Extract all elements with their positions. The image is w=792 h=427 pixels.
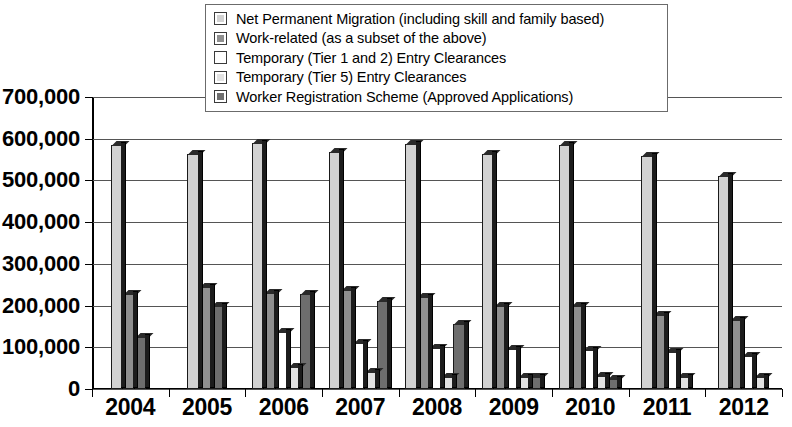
y-tick-mark	[85, 97, 93, 98]
plot-area	[92, 97, 782, 389]
y-tick-label: 500,000	[2, 167, 80, 193]
legend-swatch-icon	[214, 51, 227, 64]
legend-swatch-icon	[214, 71, 227, 84]
x-tick-label: 2012	[719, 394, 769, 421]
bar-2012-series-0	[718, 176, 730, 389]
y-axis: 0100,000200,000300,000400,000500,000600,…	[0, 0, 92, 427]
bar-2006-series-0	[252, 143, 264, 389]
legend-label: Worker Registration Scheme (Approved App…	[236, 89, 573, 105]
legend-label: Work-related (as a subset of the above)	[236, 30, 487, 46]
y-tick-label: 700,000	[2, 84, 80, 110]
legend-item-4: Worker Registration Scheme (Approved App…	[214, 87, 661, 107]
legend-swatch-icon	[214, 90, 227, 103]
x-tick-label: 2004	[105, 394, 155, 421]
gridline	[92, 389, 782, 390]
y-tick-mark	[85, 180, 93, 181]
y-tick-mark	[85, 139, 93, 140]
bar-2011-series-0	[641, 156, 653, 389]
bar-2008-series-0	[405, 144, 417, 389]
gridline	[92, 139, 782, 140]
y-tick-label: 600,000	[2, 126, 80, 152]
x-axis: 200420052006200720082009201020112012	[92, 392, 782, 427]
y-tick-mark	[85, 306, 93, 307]
bar-2009-series-0	[482, 154, 494, 389]
y-tick-label: 100,000	[2, 334, 80, 360]
legend-label: Temporary (Tier 1 and 2) Entry Clearance…	[236, 50, 506, 66]
bar-2007-series-0	[329, 152, 341, 389]
legend-item-2: Temporary (Tier 1 and 2) Entry Clearance…	[214, 48, 661, 68]
chart-legend: Net Permanent Migration (including skill…	[205, 4, 668, 112]
x-tick-label: 2011	[643, 394, 692, 421]
x-tick-label: 2010	[565, 394, 615, 421]
y-tick-label: 200,000	[2, 293, 80, 319]
y-tick-mark	[85, 222, 93, 223]
legend-swatch-icon	[214, 32, 227, 45]
x-tick-label: 2006	[259, 394, 309, 421]
x-tick-label: 2007	[335, 394, 385, 421]
legend-label: Temporary (Tier 5) Entry Clearances	[236, 69, 466, 85]
x-tick-mark	[782, 389, 783, 397]
y-tick-label: 400,000	[2, 209, 80, 235]
legend-item-3: Temporary (Tier 5) Entry Clearances	[214, 68, 661, 88]
legend-label: Net Permanent Migration (including skill…	[236, 11, 604, 27]
migration-bar-chart: 0100,000200,000300,000400,000500,000600,…	[0, 0, 792, 427]
y-tick-mark	[85, 347, 93, 348]
bar-2004-series-0	[111, 145, 123, 389]
y-axis-line	[92, 97, 94, 389]
x-tick-label: 2009	[489, 394, 539, 421]
bar-2010-series-0	[559, 145, 571, 389]
legend-item-1: Work-related (as a subset of the above)	[214, 29, 661, 49]
y-tick-label: 300,000	[2, 251, 80, 277]
legend-item-0: Net Permanent Migration (including skill…	[214, 9, 661, 29]
y-tick-mark	[85, 264, 93, 265]
bar-2005-series-0	[187, 154, 199, 389]
x-tick-label: 2005	[182, 394, 232, 421]
x-tick-label: 2008	[412, 394, 462, 421]
y-tick-label: 0	[68, 376, 80, 402]
legend-swatch-icon	[214, 12, 227, 25]
